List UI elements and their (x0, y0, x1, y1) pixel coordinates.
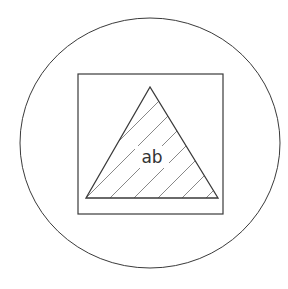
outer-circle (20, 18, 280, 268)
inner-square (78, 74, 223, 214)
triangle-label: ab (141, 147, 162, 167)
diagram-canvas: ab (0, 0, 288, 289)
